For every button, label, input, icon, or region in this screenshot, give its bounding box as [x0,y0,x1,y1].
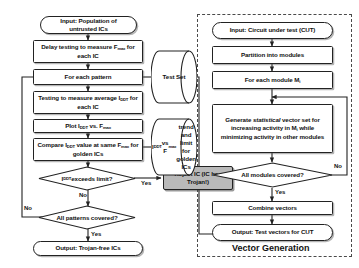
node-partition-modules: Partition into modules [212,46,333,64]
decision-all-modules-covered: All modules covered? [212,162,333,188]
node-plot-iddt-fmax-label: Plot IDDT vs. Fmax [65,122,111,130]
node-input-population: Input: Population of untrusted ICs [40,16,137,34]
node-input-population-label: Input: Population of untrusted ICs [47,17,130,33]
node-input-cut-label: Input: Circuit under test (CUT) [230,26,316,34]
edge-label-modules-yes: Yes [275,189,285,195]
node-for-each-module: For each module Mi [212,71,333,89]
node-output-trojan-free: Output: Trojan-free ICs [33,241,143,256]
node-plot-iddt-fmax: Plot IDDT vs. Fmax [33,119,143,133]
datastore-test-set-label: Test Set [151,50,197,104]
edge-label-modules-no: No [334,163,342,169]
node-measure-iddt-label: Testing to measure average IDDT for each… [36,94,140,111]
node-delay-testing-label: Delay testing to measure Fmax for each I… [36,43,140,60]
node-combine-vectors: Combine vectors [212,201,333,215]
node-delay-testing: Delay testing to measure Fmax for each I… [33,40,143,63]
flowchart-figure: Input: Population of untrusted ICs Delay… [0,0,359,268]
decision-all-patterns-covered: All patterns covered? [38,205,136,230]
node-combine-vectors-label: Combine vectors [248,204,297,212]
node-compare-golden: Compare IDDT value at same Fmax for gold… [33,138,143,161]
edge-label-patterns-yes: Yes [91,231,101,237]
decision-all-patterns-covered-label: All patterns covered? [38,205,136,230]
node-for-each-pattern: For each pattern [33,69,143,85]
node-compare-golden-label: Compare IDDT value at same Fmax for gold… [36,141,140,158]
node-generate-vector-set-label: Generate statistical vector set for incr… [215,116,330,141]
datastore-test-set: Test Set [151,50,197,104]
node-input-cut: Input: Circuit under test (CUT) [212,22,333,39]
datastore-golden-trend: IDDT vs Fmax trend and limit for golden … [151,118,197,176]
node-output-test-vectors-label: Output: Test vectors for CUT [232,228,314,236]
edge-label-limit-yes: Yes [141,180,151,186]
node-for-each-pattern-label: For each pattern [65,73,112,81]
node-for-each-module-label: For each module Mi [245,76,301,84]
edge-label-patterns-no: No [24,205,32,211]
node-generate-vector-set: Generate statistical vector set for incr… [212,104,333,153]
node-partition-modules-label: Partition into modules [241,51,304,59]
node-measure-iddt: Testing to measure average IDDT for each… [33,91,143,114]
edge-label-limit-no: No [79,192,87,198]
node-output-trojan-free-label: Output: Trojan-free ICs [55,244,120,252]
decision-all-modules-covered-label: All modules covered? [212,162,333,188]
decision-iddt-exceeds-limit-label: IDDT exceeds limit? [38,166,136,191]
datastore-golden-trend-label: IDDT vs Fmax trend and limit for golden … [151,118,197,176]
decision-iddt-exceeds-limit: IDDT exceeds limit? [38,166,136,191]
vector-generation-title: Vector Generation [232,243,310,253]
node-output-test-vectors: Output: Test vectors for CUT [212,224,333,241]
